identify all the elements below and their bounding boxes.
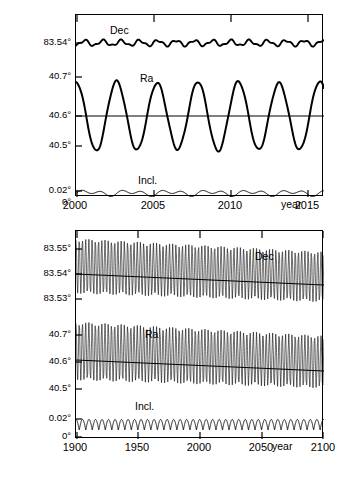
annotation-ra: Ra bbox=[140, 72, 153, 84]
top-plot-svg bbox=[76, 15, 324, 197]
y-tick-label: 83.53° bbox=[3, 293, 71, 303]
dec-curve bbox=[76, 39, 324, 46]
x-tick-label: 2000 bbox=[183, 441, 215, 453]
y-tick-label: 83.54° bbox=[3, 268, 71, 278]
y-tick-label: 40.6° bbox=[3, 110, 71, 120]
bottom-chart-panel: 83.55°83.54°83.53°40.7°40.6°40.5°0.02°0°… bbox=[0, 222, 353, 474]
annotation-incl: Incl. bbox=[135, 400, 154, 412]
incl-curve bbox=[76, 190, 324, 196]
bottom-plot-svg bbox=[76, 231, 324, 439]
y-tick-label: 83.54° bbox=[3, 37, 71, 47]
x-tick-label: 1950 bbox=[121, 441, 153, 453]
bottom-plot-area bbox=[75, 230, 323, 438]
figure-root: 83.54°40.7°40.6°40.5°0.02°0° 20002005201… bbox=[0, 0, 353, 480]
y-tick-label: 40.5° bbox=[3, 383, 71, 393]
y-tick-label: 0.02° bbox=[3, 185, 71, 195]
x-tick-label: 2005 bbox=[137, 199, 169, 211]
y-tick-label: 40.6° bbox=[3, 356, 71, 366]
x-tick-label: 2100 bbox=[307, 441, 339, 453]
top-x-axis-title: year bbox=[281, 198, 301, 210]
y-tick-label: 83.55° bbox=[3, 243, 71, 253]
y-tick-label: 0.02° bbox=[3, 413, 71, 423]
bottom-x-axis-title: year bbox=[272, 440, 292, 452]
annotation-incl: Incl. bbox=[138, 174, 157, 186]
y-tick-label: 40.7° bbox=[3, 71, 71, 81]
incl-dense-curve bbox=[76, 420, 324, 430]
y-tick-label: 40.7° bbox=[3, 329, 71, 339]
y-tick-label: 0° bbox=[3, 431, 71, 441]
x-tick-label: 2010 bbox=[214, 199, 246, 211]
annotation-ra: Ra bbox=[145, 328, 158, 340]
annotation-dec: Dec bbox=[110, 24, 129, 36]
x-tick-label: 2000 bbox=[59, 199, 91, 211]
x-tick-label: 1900 bbox=[59, 441, 91, 453]
top-plot-area bbox=[75, 14, 323, 196]
ra-dense-curve bbox=[76, 323, 324, 388]
annotation-dec: Dec bbox=[255, 250, 274, 262]
y-tick-label: 40.5° bbox=[3, 140, 71, 150]
dec-dense-curve bbox=[76, 239, 324, 301]
top-chart-panel: 83.54°40.7°40.6°40.5°0.02°0° 20002005201… bbox=[0, 6, 353, 216]
